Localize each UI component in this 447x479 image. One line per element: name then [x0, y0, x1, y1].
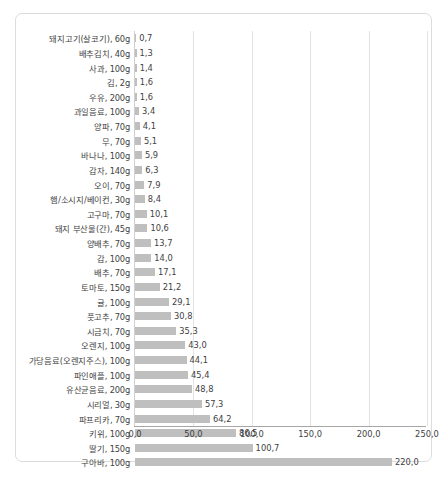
category-label: 풋고추, 70g	[87, 310, 131, 322]
bar[interactable]	[135, 327, 176, 335]
bar-track: 1,6	[135, 75, 427, 90]
bar-row: 토마토, 150g21,2	[16, 280, 431, 295]
x-tick-label: 0,0	[128, 429, 141, 439]
bar[interactable]	[135, 224, 147, 232]
category-label: 양파, 70g	[94, 120, 130, 132]
bar-row: 시리얼, 30g57,3	[16, 397, 431, 412]
category-label: 사과, 100g	[89, 62, 130, 74]
bar-track: 57,3	[135, 397, 427, 412]
category-label: 돼지고기(살코기), 60g	[49, 32, 130, 44]
bar-track: 45,4	[135, 367, 427, 382]
bar-track: 1,4	[135, 60, 427, 75]
bar[interactable]	[135, 415, 210, 423]
bar-track: 3,4	[135, 104, 427, 119]
bar-value-label: 3,4	[139, 106, 155, 116]
bar-value-label: 5,1	[141, 136, 157, 146]
bar-row: 고구마, 70g10,1	[16, 207, 431, 222]
category-label: 무, 70g	[102, 135, 130, 147]
category-label: 구아바, 100g	[81, 456, 130, 468]
bar[interactable]	[135, 239, 151, 247]
category-label: 고구마, 70g	[87, 208, 131, 220]
bar[interactable]	[135, 181, 144, 189]
bar-row: 양파, 70g4,1	[16, 119, 431, 134]
bar-row: 파프리카, 70g64,2	[16, 411, 431, 426]
bar-value-label: 4,1	[140, 121, 156, 131]
bar-value-label: 220,0	[392, 457, 419, 467]
bar-value-label: 1,6	[137, 92, 153, 102]
category-label: 시리얼, 30g	[87, 398, 131, 410]
bar-value-label: 10,6	[147, 223, 168, 233]
x-tick-label: 50,0	[184, 429, 202, 439]
bar[interactable]	[135, 210, 147, 218]
bar-row: 오렌지, 100g43,0	[16, 338, 431, 353]
bar-value-label: 43,0	[185, 340, 206, 350]
bar-row: 무, 70g5,1	[16, 133, 431, 148]
bar-track: 44,1	[135, 353, 427, 368]
bar-track: 7,9	[135, 177, 427, 192]
bar-track: 5,1	[135, 133, 427, 148]
bar[interactable]	[135, 283, 160, 291]
category-label: 오이, 70g	[94, 179, 130, 191]
category-label: 돼지 부산물(간), 45g	[55, 222, 130, 234]
category-label: 유산균음료, 200g	[66, 383, 130, 395]
bar-value-label: 44,1	[187, 355, 208, 365]
bar-value-label: 1,6	[137, 77, 153, 87]
category-label: 가당음료(오렌지주스), 100g	[29, 354, 130, 366]
bar[interactable]	[135, 298, 169, 306]
bar[interactable]	[135, 385, 192, 393]
bar-value-label: 64,2	[210, 414, 231, 424]
bar-row: 오이, 70g7,9	[16, 177, 431, 192]
x-tick-label: 250,0	[415, 429, 439, 439]
bar-track: 8,4	[135, 192, 427, 207]
bar-row: 양배추, 70g13,7	[16, 236, 431, 251]
bar-track: 48,8	[135, 382, 427, 397]
bar-row: 김, 2g1,6	[16, 75, 431, 90]
bar-track: 6,3	[135, 163, 427, 178]
bar-row: 바나나, 100g5,9	[16, 148, 431, 163]
bar[interactable]	[135, 166, 142, 174]
bar-track: 1,6	[135, 90, 427, 105]
bar[interactable]	[135, 254, 151, 262]
bar[interactable]	[135, 151, 142, 159]
bar-value-label: 5,9	[142, 150, 158, 160]
bar-row: 사과, 100g1,4	[16, 60, 431, 75]
bar-track: 17,1	[135, 265, 427, 280]
bar[interactable]	[135, 371, 188, 379]
bar-row: 유산균음료, 200g48,8	[16, 382, 431, 397]
bar-value-label: 45,4	[188, 370, 209, 380]
bar[interactable]	[135, 195, 145, 203]
bar-row: 풋고추, 70g30,8	[16, 309, 431, 324]
bar-value-label: 17,1	[155, 267, 176, 277]
bar[interactable]	[135, 268, 155, 276]
category-label: 시금치, 70g	[87, 325, 131, 337]
bar-value-label: 30,8	[171, 311, 192, 321]
bar-row: 구아바, 100g220,0	[16, 455, 431, 470]
bar-row: 햄/소시지/베이컨, 30g8,4	[16, 192, 431, 207]
category-label: 배추김치, 40g	[79, 47, 130, 59]
bar-track: 29,1	[135, 294, 427, 309]
bar-row: 돼지고기(살코기), 60g0,7	[16, 31, 431, 46]
bar-row: 가당음료(오렌지주스), 100g44,1	[16, 353, 431, 368]
bar-value-label: 48,8	[192, 384, 213, 394]
category-label: 양배추, 70g	[87, 237, 131, 249]
x-axis-tick-labels: 0,050,0100,0150,0200,0250,0	[16, 429, 431, 445]
chart-plot-area: 돼지고기(살코기), 60g0,7배추김치, 40g1,3사과, 100g1,4…	[16, 14, 431, 461]
category-label: 우유, 200g	[89, 91, 130, 103]
bar[interactable]	[135, 458, 392, 466]
x-tick-label: 150,0	[298, 429, 322, 439]
bar-row: 배추, 70g17,1	[16, 265, 431, 280]
x-tick-label: 100,0	[240, 429, 264, 439]
bar-value-label: 1,4	[137, 63, 153, 73]
bar[interactable]	[135, 356, 187, 364]
bar[interactable]	[135, 444, 253, 452]
bar[interactable]	[135, 312, 171, 320]
bar-track: 4,1	[135, 119, 427, 134]
bar-value-label: 6,3	[142, 165, 158, 175]
category-label: 토마토, 150g	[81, 281, 130, 293]
bar[interactable]	[135, 341, 185, 349]
bar-track: 43,0	[135, 338, 427, 353]
bar-value-label: 57,3	[202, 399, 223, 409]
bar-rows: 돼지고기(살코기), 60g0,7배추김치, 40g1,3사과, 100g1,4…	[16, 31, 431, 426]
bar-row: 감자, 140g6,3	[16, 163, 431, 178]
bar[interactable]	[135, 400, 202, 408]
